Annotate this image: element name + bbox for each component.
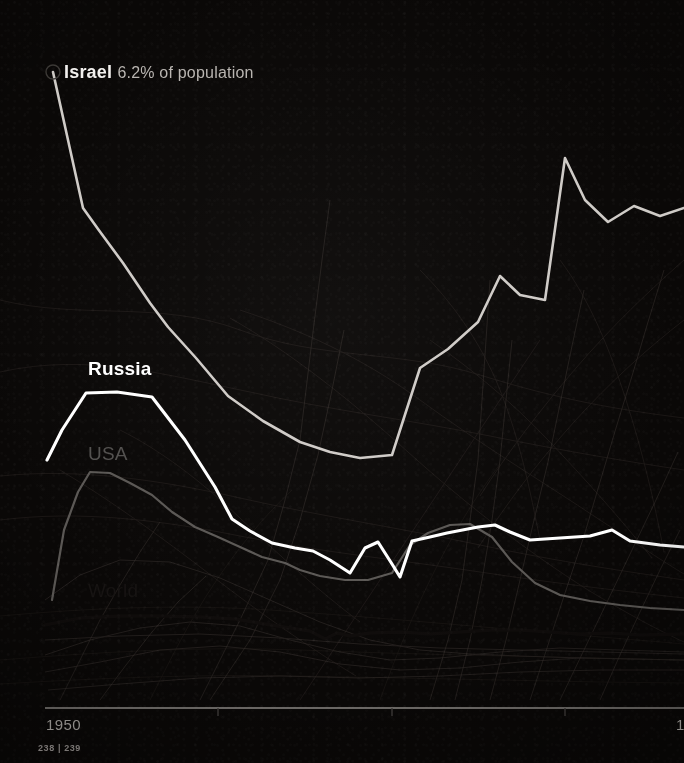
page-folio: 238 | 239 <box>38 743 81 753</box>
main-series-layer <box>0 0 684 763</box>
x-tick-label-1950: 1950 <box>46 716 81 733</box>
series-line-russia <box>47 392 684 577</box>
series-line-israel <box>53 72 684 458</box>
chart-page: Israel 6.2% of population Russia USA Wor… <box>0 0 684 763</box>
series-line-usa <box>52 472 684 610</box>
x-tick-label-right: 1 <box>676 716 684 733</box>
x-axis-ticks <box>218 708 565 716</box>
series-line-world <box>45 616 684 639</box>
